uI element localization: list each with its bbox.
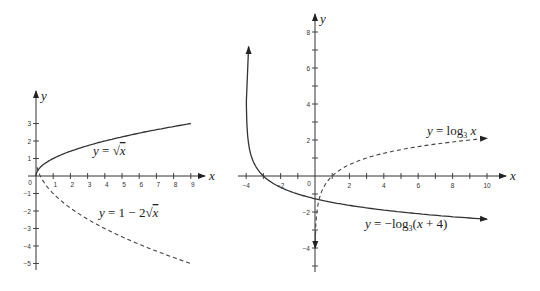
x-tick-label: 9: [191, 181, 195, 188]
y-tick-label: −1: [24, 190, 32, 197]
x-tick-label: 2: [71, 181, 75, 188]
y-tick-label: 2: [306, 137, 310, 144]
equation-op: = log: [433, 123, 464, 138]
x-axis-label: x: [208, 168, 215, 183]
y-tick-label: −2: [24, 208, 32, 215]
left-chart: xy0123456789321−1−2−3−4−5y = √xy = 1 − 2…: [24, 88, 215, 270]
equation-op: = 1 − 2: [105, 205, 146, 220]
x-tick-label: 8: [451, 182, 455, 189]
equation-op: = −log: [371, 216, 409, 231]
equation-text: y = √x: [91, 143, 126, 158]
right-chart: xy0−4−22468108642−2−4y = log3 xy = −log3…: [238, 11, 516, 272]
y-tick-label: −2: [303, 209, 311, 216]
x-tick-label: 8: [174, 181, 178, 188]
y-tick-label: −4: [24, 243, 32, 250]
curve-log3-x: [315, 138, 487, 248]
equation-op: =: [99, 143, 113, 158]
y-tick-label: −3: [24, 225, 32, 232]
y-tick-label: 2: [27, 138, 31, 145]
y-tick-label: 6: [306, 65, 310, 72]
equation-rest: + 4): [423, 216, 448, 231]
y-tick-label: 4: [306, 101, 310, 108]
radicand: x: [152, 205, 159, 220]
y-tick-label: 1: [27, 155, 31, 162]
x-tick-label: 3: [88, 181, 92, 188]
x-tick-label: 10: [483, 182, 491, 189]
x-tick-label: 7: [157, 181, 161, 188]
x-tick-label: 1: [53, 181, 57, 188]
equation-label-log3-x: y = log3 x: [425, 123, 476, 140]
equation-label-sqrt-x: y = √x: [91, 143, 126, 158]
radicand: x: [119, 143, 126, 158]
y-tick-label: 3: [27, 120, 31, 127]
x-tick-label: 6: [416, 182, 420, 189]
x-tick-label: 4: [382, 182, 386, 189]
x-tick-label: 4: [105, 181, 109, 188]
origin-label: 0: [28, 179, 32, 186]
x-tick-label: 5: [122, 181, 126, 188]
equation-var: x: [467, 123, 476, 138]
equation-text: y = 1 − 2√x: [97, 205, 159, 220]
equation-label-1-minus-2sqrt-x: y = 1 − 2√x: [97, 205, 159, 220]
y-tick-label: 8: [306, 29, 310, 36]
x-tick-label: 2: [348, 182, 352, 189]
y-tick-label: −4: [303, 245, 311, 252]
y-axis-label: y: [39, 88, 47, 103]
x-axis-label: x: [509, 168, 516, 183]
x-tick-label: −4: [242, 182, 250, 189]
figure: xy0123456789321−1−2−3−4−5y = √xy = 1 − 2…: [0, 0, 540, 291]
equation-label-neg-log3-x-plus-4: y = −log3(x + 4): [363, 216, 447, 233]
origin-label: 0: [307, 180, 311, 187]
x-tick-label: 6: [139, 181, 143, 188]
y-tick-label: −5: [24, 260, 32, 267]
y-axis-label: y: [318, 11, 326, 26]
